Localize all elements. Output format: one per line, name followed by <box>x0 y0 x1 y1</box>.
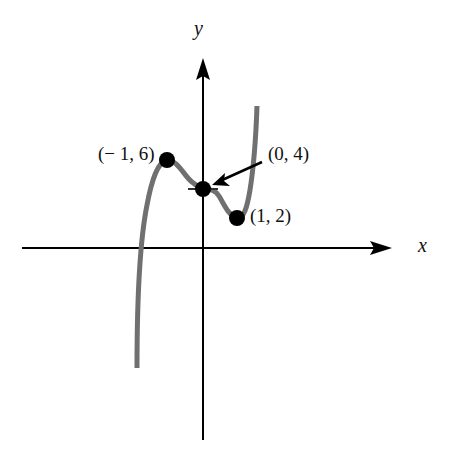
y-axis-label: y <box>192 17 203 40</box>
label-inflection: (0, 4) <box>268 143 309 165</box>
point-local-min <box>229 210 245 226</box>
label-local-max: (− 1, 6) <box>98 143 155 165</box>
label-local-min: (1, 2) <box>250 205 291 227</box>
point-local-max <box>159 152 175 168</box>
pointer-arrow <box>220 162 262 181</box>
pointer-arrowhead-icon <box>212 173 230 186</box>
function-graph: (− 1, 6) (0, 4) (1, 2) y x <box>0 0 449 459</box>
x-axis-label: x <box>417 234 427 256</box>
point-inflection <box>195 181 211 197</box>
polynomial-curve <box>137 106 257 368</box>
x-axis <box>22 241 392 255</box>
